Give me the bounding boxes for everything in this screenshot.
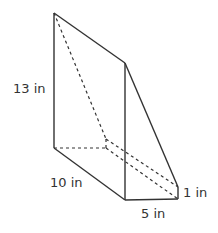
edge-front-hypotenuse bbox=[125, 63, 178, 187]
edge-bottom-front bbox=[125, 199, 178, 200]
label-short-edge: 1 in bbox=[183, 185, 207, 200]
label-depth: 10 in bbox=[50, 175, 83, 190]
edge-top-slant bbox=[54, 13, 125, 63]
label-height: 13 in bbox=[13, 81, 46, 96]
hidden-edge-bottom-right-slant bbox=[106, 148, 178, 199]
edge-bottom-left-slant bbox=[54, 148, 125, 200]
label-width: 5 in bbox=[141, 206, 165, 221]
